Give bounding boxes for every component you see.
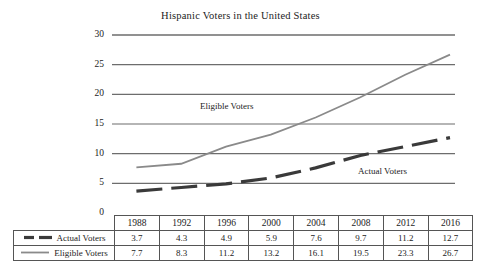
table-col-header: 1988 (115, 216, 160, 231)
table-col-header: 2008 (338, 216, 383, 231)
table-cell: 11.2 (383, 231, 428, 246)
y-axis-tick-label: 5 (78, 178, 104, 188)
y-axis-tick-label: 10 (78, 149, 104, 159)
table-col-header: 2016 (428, 216, 473, 231)
annotation-eligible-voters: Eligible Voters (200, 101, 253, 111)
table-row: Eligible Voters 7.7 8.3 11.2 13.2 16.1 1… (14, 246, 473, 261)
gridline-group (112, 35, 455, 183)
table-cell: 26.7 (428, 246, 473, 261)
legend-row-eligible-voters: Eligible Voters (14, 246, 115, 261)
legend-label: Actual Voters (57, 233, 106, 243)
y-axis-tick-label: 15 (78, 119, 104, 129)
table-cell: 8.3 (159, 246, 204, 261)
chart-canvas: Hispanic Voters in the United States 302… (0, 0, 481, 215)
table-col-header: 1996 (204, 216, 249, 231)
table-cell: 19.5 (338, 246, 383, 261)
series-line-eligible (136, 55, 450, 168)
table-cell: 5.9 (249, 231, 294, 246)
table-cell: 9.7 (338, 231, 383, 246)
table-cell: 23.3 (383, 246, 428, 261)
legend-row-actual-voters: Actual Voters (14, 231, 115, 246)
legend-swatch-solid-icon (20, 248, 50, 257)
table-cell: 4.9 (204, 231, 249, 246)
data-table: 1988 1992 1996 2000 2004 2008 2012 2016 (13, 215, 473, 261)
table-col-header: 1992 (159, 216, 204, 231)
table-cell: 13.2 (249, 246, 294, 261)
table-cell: 7.6 (294, 231, 339, 246)
table-cell: 12.7 (428, 231, 473, 246)
table-col-header: 2000 (249, 216, 294, 231)
legend-swatch-dashed-icon (23, 233, 53, 242)
table-row: Actual Voters 3.7 4.3 4.9 5.9 7.6 9.7 11… (14, 231, 473, 246)
table-corner-cell (14, 216, 115, 231)
table-cell: 7.7 (115, 246, 160, 261)
legend-label: Eligible Voters (54, 248, 107, 258)
table-cell: 16.1 (294, 246, 339, 261)
table-cell: 3.7 (115, 231, 160, 246)
table-header-row: 1988 1992 1996 2000 2004 2008 2012 2016 (14, 216, 473, 231)
y-axis-tick-label: 20 (78, 89, 104, 99)
table-col-header: 2012 (383, 216, 428, 231)
table-col-header: 2004 (294, 216, 339, 231)
y-axis-tick-label: 25 (78, 60, 104, 70)
table-cell: 11.2 (204, 246, 249, 261)
annotation-actual-voters: Actual Voters (358, 166, 407, 176)
table-cell: 4.3 (159, 231, 204, 246)
y-axis-tick-label: 30 (78, 30, 104, 40)
